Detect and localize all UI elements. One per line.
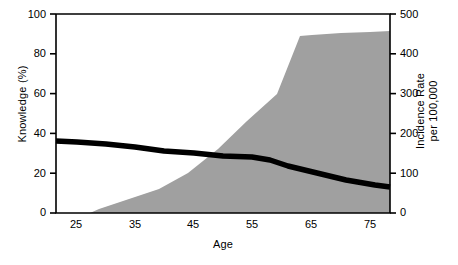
right-axis-ticks xyxy=(390,14,396,213)
y-axis-right-title-line2: per 100,000 xyxy=(427,56,440,166)
x-tick-45: 45 xyxy=(178,218,208,230)
y-left-tick-0: 0 xyxy=(20,206,46,218)
x-tick-55: 55 xyxy=(237,218,267,230)
x-tick-75: 75 xyxy=(355,218,385,230)
y-axis-right-title-line1: Incidence Rate xyxy=(414,56,427,166)
y-right-tick-0: 0 xyxy=(400,206,430,218)
y-right-tick-100: 100 xyxy=(400,167,430,179)
y-axis-right-title: Incidence Rate per 100,000 xyxy=(414,56,440,166)
y-left-tick-20: 20 xyxy=(20,167,46,179)
x-tick-65: 65 xyxy=(296,218,326,230)
chart-figure: 100 80 60 40 20 0 500 400 300 200 100 0 … xyxy=(0,0,458,265)
y-left-tick-100: 100 xyxy=(20,8,46,20)
x-axis-title: Age xyxy=(0,238,446,250)
left-axis-ticks xyxy=(50,14,56,213)
incidence-rate-area xyxy=(87,31,390,213)
y-right-tick-500: 500 xyxy=(400,8,430,20)
y-axis-left-title: Knowledge (%) xyxy=(16,49,28,159)
x-tick-25: 25 xyxy=(61,218,91,230)
x-tick-35: 35 xyxy=(120,218,150,230)
